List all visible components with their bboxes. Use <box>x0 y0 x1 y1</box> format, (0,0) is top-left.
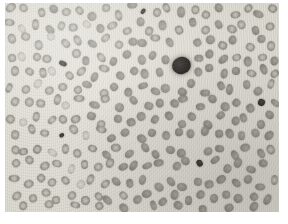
micrograph-figure <box>0 0 288 224</box>
micrograph-plate <box>5 3 279 212</box>
smear-background-field <box>5 3 279 212</box>
